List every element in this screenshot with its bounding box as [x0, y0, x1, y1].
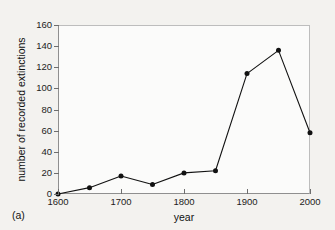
- data-point: [87, 185, 92, 190]
- y-tick-mark: [54, 110, 59, 111]
- data-point: [245, 71, 250, 76]
- x-tick-mark: [58, 189, 59, 194]
- x-tick-label: 1700: [110, 197, 131, 207]
- x-tick-mark: [247, 189, 248, 194]
- x-tick-mark: [121, 189, 122, 194]
- y-tick-mark: [54, 152, 59, 153]
- x-axis-label: year: [58, 211, 310, 223]
- x-tick-label: 2000: [299, 197, 320, 207]
- x-tick-label: 1800: [173, 197, 194, 207]
- y-tick-label: 40: [41, 147, 52, 157]
- x-tick-mark: [310, 189, 311, 194]
- data-point: [150, 182, 155, 187]
- figure: 020406080100120140160 160017001800190020…: [0, 0, 335, 230]
- data-point: [276, 48, 281, 53]
- data-point: [182, 170, 187, 175]
- x-tick-mark: [184, 189, 185, 194]
- y-tick-label: 160: [36, 20, 52, 30]
- x-tick-label: 1600: [47, 197, 68, 207]
- y-tick-label: 60: [41, 126, 52, 136]
- y-tick-mark: [54, 194, 59, 195]
- y-tick-mark: [54, 173, 59, 174]
- panel-label: (a): [12, 209, 25, 221]
- y-axis-label: number of recorded extinctions: [14, 25, 28, 194]
- x-tick-label: 1900: [236, 197, 257, 207]
- y-tick-label: 120: [36, 63, 52, 73]
- y-tick-label: 20: [41, 168, 52, 178]
- data-point: [213, 168, 218, 173]
- y-tick-mark: [54, 67, 59, 68]
- y-tick-mark: [54, 88, 59, 89]
- y-tick-label: 80: [41, 105, 52, 115]
- data-point: [308, 130, 313, 135]
- y-tick-label: 140: [36, 41, 52, 51]
- marker-group: [56, 48, 313, 197]
- y-tick-mark: [54, 46, 59, 47]
- y-tick-mark: [54, 131, 59, 132]
- y-tick-label: 100: [36, 84, 52, 94]
- series-line-chart: [58, 25, 310, 194]
- data-point: [119, 174, 124, 179]
- plot-area: 020406080100120140160 160017001800190020…: [58, 25, 310, 194]
- y-tick-mark: [54, 25, 59, 26]
